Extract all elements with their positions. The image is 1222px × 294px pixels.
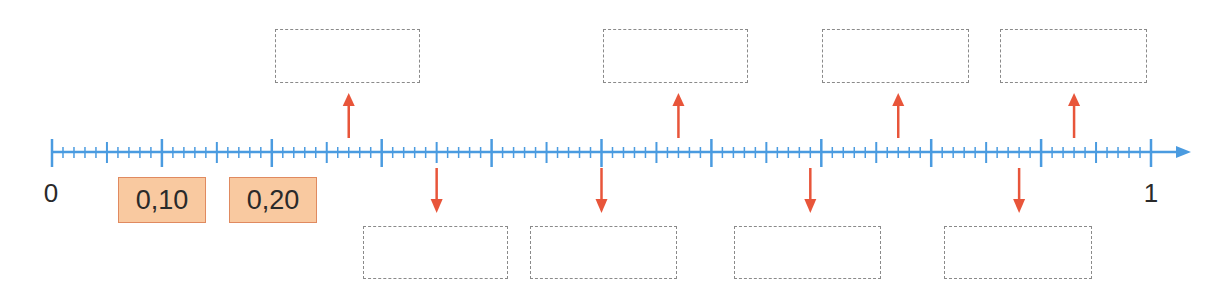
given-label-0-10: 0,10 (118, 177, 206, 223)
answer-box-bottom-2[interactable] (530, 226, 677, 279)
answer-box-top-4[interactable] (1000, 29, 1147, 83)
down-arrow-icon (804, 199, 816, 213)
answer-box-bottom-3[interactable] (734, 226, 881, 279)
end-label: 1 (1144, 178, 1158, 209)
start-label: 0 (44, 178, 58, 209)
answer-box-top-1[interactable] (275, 29, 420, 83)
up-arrow-icon (1068, 93, 1080, 106)
down-arrow-icon (596, 199, 608, 213)
up-arrow-icon (672, 93, 684, 106)
answer-box-bottom-1[interactable] (363, 226, 508, 279)
answer-box-bottom-4[interactable] (944, 226, 1092, 279)
axis-arrowhead-icon (1176, 146, 1191, 158)
down-arrow-icon (1013, 199, 1025, 213)
down-arrow-icon (431, 199, 443, 213)
given-label-0-20: 0,20 (229, 177, 317, 223)
up-arrow-icon (892, 93, 904, 106)
answer-box-top-2[interactable] (603, 29, 748, 83)
up-arrow-icon (343, 93, 355, 106)
answer-box-top-3[interactable] (822, 29, 969, 83)
number-line-exercise: 0 1 0,10 0,20 (0, 0, 1222, 294)
